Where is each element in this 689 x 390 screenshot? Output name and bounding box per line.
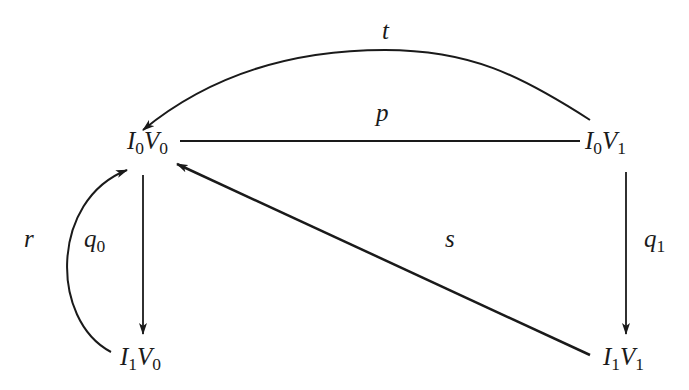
- node-i1v1-v-sub: 1: [635, 354, 644, 374]
- node-i0v0-v-sub: 0: [159, 138, 168, 158]
- edge-label-t: t: [382, 18, 389, 43]
- node-i1v0-v: V: [137, 343, 152, 370]
- edge-label-r: r: [24, 226, 34, 251]
- node-i0v1: I0V1: [585, 128, 626, 153]
- node-i1v0: I1V0: [120, 344, 161, 369]
- node-i0v0: I0V0: [127, 128, 168, 153]
- node-i1v1-v: V: [620, 343, 635, 370]
- node-i1v0-i-sub: 1: [128, 354, 137, 374]
- node-i0v0-v: V: [144, 127, 159, 154]
- edge-s-arrow: [177, 164, 590, 355]
- edge-label-s: s: [445, 226, 455, 251]
- commutative-diagram: I0V0 I0V1 I1V0 I1V1 t p q0 q1 s r: [0, 0, 689, 390]
- edge-label-q0-text: q: [84, 225, 97, 252]
- edge-label-r-text: r: [24, 225, 34, 252]
- edge-label-q1-text: q: [644, 225, 657, 252]
- edge-label-q1-sub: 1: [657, 236, 666, 256]
- edge-label-p-text: p: [376, 99, 389, 126]
- node-i1v0-v-sub: 0: [152, 354, 161, 374]
- edge-r-arrow: [67, 170, 127, 352]
- edge-label-p: p: [376, 100, 389, 125]
- edge-label-s-text: s: [445, 225, 455, 252]
- edge-label-q1: q1: [644, 226, 665, 251]
- node-i0v1-v: V: [602, 127, 617, 154]
- edge-label-t-text: t: [382, 17, 389, 44]
- node-i1v1: I1V1: [603, 344, 644, 369]
- node-i0v1-v-sub: 1: [617, 138, 626, 158]
- node-i0v1-i-sub: 0: [593, 138, 602, 158]
- edge-label-q0-sub: 0: [97, 236, 106, 256]
- node-i0v0-i-sub: 0: [135, 138, 144, 158]
- node-i1v1-i-sub: 1: [611, 354, 620, 374]
- edge-t-arrow: [143, 50, 590, 130]
- diagram-edges: [0, 0, 689, 390]
- edge-label-q0: q0: [84, 226, 105, 251]
